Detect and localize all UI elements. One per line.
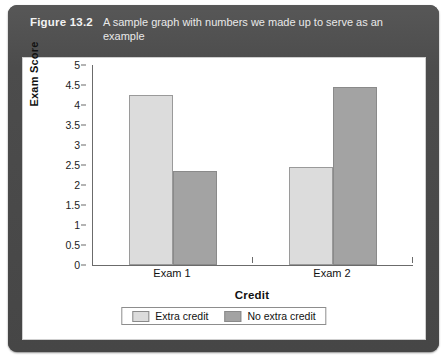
- y-tick-label: 0.5: [65, 239, 80, 251]
- bar-exam-2-no-extra-credit: [333, 87, 377, 265]
- y-tick-mark: [81, 165, 86, 166]
- figure-caption-bar: Figure 13.2 A sample graph with numbers …: [8, 5, 439, 57]
- y-tick-label: 3: [74, 139, 80, 151]
- x-axis-title: Credit: [92, 289, 412, 301]
- y-tick-label: 5: [74, 59, 80, 71]
- y-tick-label: 2: [74, 179, 80, 191]
- y-tick-label: 4: [74, 99, 80, 111]
- y-tick-label: 3.5: [65, 119, 80, 131]
- y-tick-mark: [81, 145, 86, 146]
- y-tick-mark: [81, 125, 86, 126]
- plot-wrapper: Exam Score 00.511.522.533.544.55 Credit …: [22, 57, 426, 340]
- y-axis-title: Exam Score: [28, 19, 40, 129]
- legend-swatch-icon-no-extra-credit: [224, 311, 241, 322]
- bar-exam-1-extra-credit: [129, 95, 173, 265]
- y-tick-label: 1: [74, 219, 80, 231]
- legend-label-no-extra-credit: No extra credit: [247, 310, 315, 322]
- y-tick-mark: [81, 85, 86, 86]
- y-tick-label: 1.5: [65, 199, 80, 211]
- y-tick-mark: [81, 205, 86, 206]
- chart-legend: Extra credit No extra credit: [121, 307, 326, 325]
- y-axis-ticks: 00.511.522.533.544.55: [50, 65, 86, 265]
- y-tick-mark: [81, 265, 86, 266]
- x-tick-mark: [252, 257, 253, 263]
- figure-panel: Figure 13.2 A sample graph with numbers …: [8, 5, 439, 352]
- x-tick-mark: [412, 257, 413, 263]
- y-tick-mark: [81, 185, 86, 186]
- y-tick-mark: [81, 65, 86, 66]
- y-tick-mark: [81, 105, 86, 106]
- y-tick-label: 2.5: [65, 159, 80, 171]
- legend-swatch-icon-extra-credit: [132, 311, 149, 322]
- y-tick-label: 4.5: [65, 79, 80, 91]
- y-tick-mark: [81, 245, 86, 246]
- chart-area: Exam Score 00.511.522.533.544.55 Credit …: [22, 57, 426, 340]
- legend-label-extra-credit: Extra credit: [155, 310, 208, 322]
- plot-region: [92, 65, 413, 266]
- y-tick-mark: [81, 225, 86, 226]
- bar-exam-1-no-extra-credit: [173, 171, 217, 265]
- bar-exam-2-extra-credit: [289, 167, 333, 265]
- x-tick-label: Exam 2: [313, 267, 350, 279]
- y-tick-label: 0: [74, 259, 80, 271]
- figure-caption-text: A sample graph with numbers we made up t…: [103, 15, 385, 43]
- legend-item-extra-credit: Extra credit: [132, 310, 208, 322]
- x-tick-label: Exam 1: [153, 267, 190, 279]
- legend-item-no-extra-credit: No extra credit: [224, 310, 315, 322]
